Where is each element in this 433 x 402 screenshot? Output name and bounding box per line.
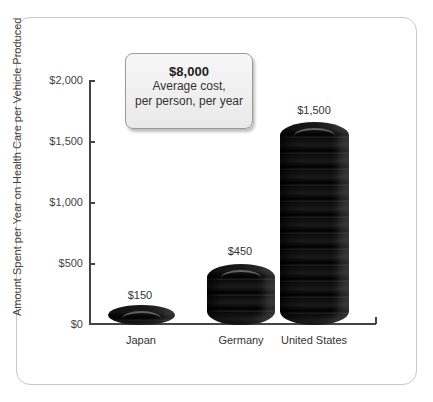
tick-label-0: $0 bbox=[71, 318, 83, 330]
x-axis-end-tick bbox=[375, 317, 377, 324]
bar-germany bbox=[207, 264, 275, 325]
y-axis-label: Amount Spent per Year on Health Care per… bbox=[11, 56, 23, 316]
tick-label-1000: $1,000 bbox=[49, 196, 83, 208]
tick-2000 bbox=[89, 80, 95, 82]
callout-line1: Average cost, bbox=[126, 79, 252, 94]
bar-united-states bbox=[280, 122, 349, 325]
category-japan: Japan bbox=[91, 334, 191, 346]
bar-value-japan: $150 bbox=[100, 289, 180, 301]
bar-japan bbox=[108, 305, 175, 325]
tick-500 bbox=[89, 263, 95, 265]
callout-value: $8,000 bbox=[126, 64, 252, 79]
bar-value-united-states: $1,500 bbox=[274, 104, 354, 116]
callout-line2: per person, per year bbox=[126, 94, 252, 109]
tick-1500 bbox=[89, 141, 95, 143]
tick-label-1500: $1,500 bbox=[49, 135, 83, 147]
tick-label-500: $500 bbox=[59, 257, 83, 269]
tick-1000 bbox=[89, 202, 95, 204]
bar-value-germany: $450 bbox=[200, 245, 280, 257]
tick-label-2000: $2,000 bbox=[49, 74, 83, 86]
category-united-states: United States bbox=[264, 334, 364, 346]
average-cost-callout: $8,000 Average cost, per person, per yea… bbox=[125, 53, 253, 129]
